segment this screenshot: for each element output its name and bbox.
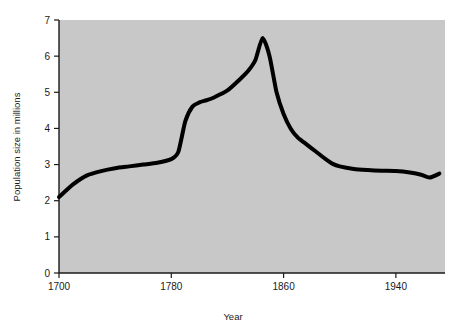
y-tick-label: 0 [44, 268, 50, 279]
population-line-chart: 01234567 1700178018601940 Population siz… [0, 0, 464, 333]
plot-area-background [59, 20, 445, 273]
y-tick-label: 6 [44, 51, 50, 62]
x-tick-label: 1860 [272, 281, 295, 292]
y-tick-label: 4 [44, 123, 50, 134]
y-tick-label: 5 [44, 87, 50, 98]
y-tick-label: 3 [44, 159, 50, 170]
y-axis-title: Population size in millions [11, 92, 22, 201]
x-tick-label: 1700 [48, 281, 71, 292]
y-tick-label: 2 [44, 195, 50, 206]
x-tick-label: 1780 [160, 281, 183, 292]
y-tick-label: 1 [44, 231, 50, 242]
y-tick-label: 7 [44, 15, 50, 26]
x-tick-label: 1940 [385, 281, 408, 292]
x-axis-title: Year [223, 311, 242, 322]
